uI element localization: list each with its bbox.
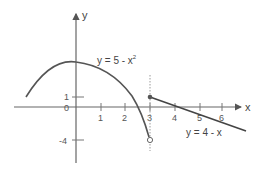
line-label: y = 4 - x	[186, 127, 222, 138]
y-tick-0: 0	[64, 103, 69, 113]
piecewise-graph: x y 1 2 3 4 5 6 1 0 -4 y = 5 - x2 y = 4 …	[0, 0, 263, 169]
x-tick-2: 2	[122, 113, 127, 123]
y-axis-label: y	[82, 9, 88, 21]
x-axis-label: x	[245, 101, 251, 113]
closed-dot-marker	[148, 95, 153, 100]
parabola-label: y = 5 - x2	[97, 54, 137, 66]
x-tick-4: 4	[172, 113, 177, 123]
line-segment	[150, 97, 246, 131]
y-tick-1: 1	[64, 92, 69, 102]
x-tick-1: 1	[98, 113, 103, 123]
open-circle-marker	[147, 137, 152, 142]
y-tick-neg4: -4	[59, 136, 67, 146]
y-ticks	[72, 97, 84, 140]
parabola-exponent: 2	[133, 54, 137, 60]
parabola-curve	[26, 62, 149, 137]
